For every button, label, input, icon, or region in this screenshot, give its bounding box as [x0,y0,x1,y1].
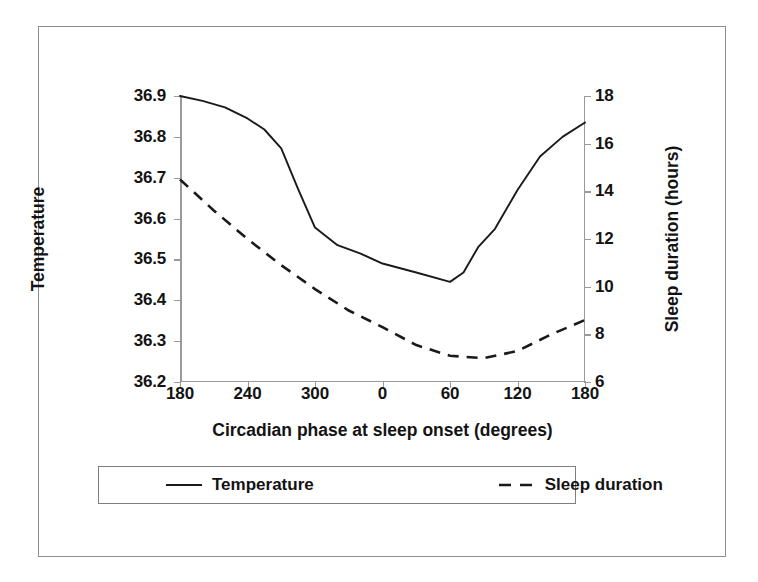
line-temperature [180,96,585,282]
y-tick-label-left: 36.2 [134,372,166,392]
y-tick-label-right: 18 [595,86,614,106]
y-tick-right [584,334,591,335]
y-tick-label-right: 8 [595,324,604,344]
chart-figure: 36.236.336.436.536.636.736.836.9 6810121… [0,0,758,582]
y-tick-label-left: 36.7 [134,168,166,188]
x-tick-label: 240 [234,384,262,404]
y-axis-left-labels: 36.236.336.436.536.636.736.836.9 [106,96,166,382]
legend-item-temperature: Temperature [165,475,314,495]
y-tick-label-right: 12 [595,229,614,249]
legend-label-temperature: Temperature [212,475,314,495]
y-tick-label-right: 16 [595,134,614,154]
y-tick-right [584,96,591,97]
y-axis-right-title: Sleep duration (hours) [662,146,683,333]
y-tick-right [584,144,591,145]
y-tick-label-right: 10 [595,277,614,297]
y-tick-right [584,239,591,240]
y-tick-label-left: 36.3 [134,331,166,351]
legend-swatch-solid [165,478,203,492]
legend-item-sleep-duration: Sleep duration [498,475,663,495]
y-tick-right [584,287,591,288]
series-lines [180,96,585,382]
y-axis-right-labels: 681012141618 [595,96,641,382]
x-tick-label: 120 [504,384,532,404]
y-tick-label-right: 14 [595,181,614,201]
y-tick-label-left: 36.4 [134,290,166,310]
y-axis-left-title: Temperature [28,187,49,292]
x-tick-label: 180 [166,384,194,404]
y-tick-label-left: 36.8 [134,127,166,147]
legend: Temperature Sleep duration [98,466,576,504]
plot-area: 36.236.336.436.536.636.736.836.9 6810121… [180,96,585,382]
line-sleep-duration [180,179,585,358]
y-tick-label-left: 36.5 [134,249,166,269]
y-tick-label-left: 36.6 [134,209,166,229]
x-tick-label: 300 [301,384,329,404]
x-tick-label: 60 [441,384,460,404]
y-tick-label-left: 36.9 [134,86,166,106]
x-axis-title: Circadian phase at sleep onset (degrees) [180,420,585,441]
x-tick-label: 0 [378,384,387,404]
legend-swatch-dashed [498,478,536,492]
x-tick-label: 180 [571,384,599,404]
y-tick-right [584,191,591,192]
legend-label-sleep-duration: Sleep duration [545,475,663,495]
